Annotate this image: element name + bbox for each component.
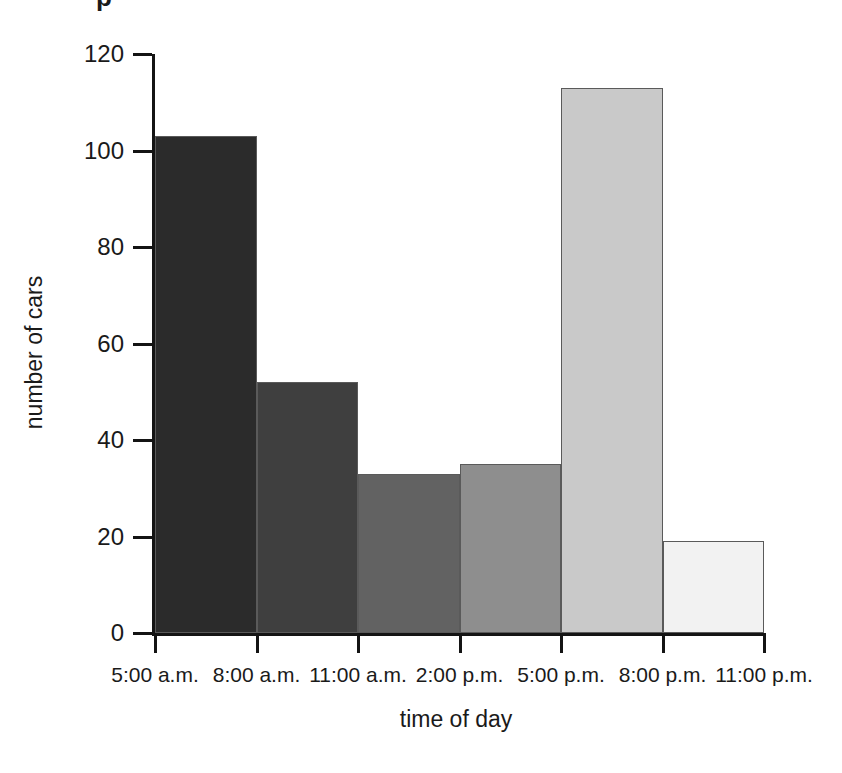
bar: [358, 474, 460, 633]
x-axis-tick: [662, 636, 665, 653]
x-axis-tick-label: 5:00 a.m.: [111, 664, 199, 685]
x-axis-title: time of day: [0, 706, 842, 733]
y-axis-tick: [133, 53, 152, 56]
bar: [663, 541, 765, 633]
y-axis-tick-label: 20: [4, 525, 124, 549]
bar: [460, 464, 562, 633]
x-axis-tick-label: 11:00 a.m.: [309, 664, 407, 685]
x-axis-tick: [459, 636, 462, 653]
bar: [155, 136, 257, 633]
y-axis-tick: [133, 150, 152, 153]
x-axis-tick: [256, 636, 259, 653]
x-axis-tick-label: 5:00 p.m.: [517, 664, 605, 685]
y-axis-tick-label: 100: [4, 139, 124, 163]
y-axis-tick-label: 120: [4, 42, 124, 66]
x-axis-title-text: time of day: [400, 706, 513, 732]
y-axis-tick: [133, 632, 152, 635]
y-axis-title: number of cars: [21, 233, 48, 473]
x-axis-tick: [763, 636, 766, 653]
y-axis-tick: [133, 343, 152, 346]
x-axis-tick: [357, 636, 360, 653]
x-axis-tick-label: 8:00 p.m.: [619, 664, 707, 685]
bar: [257, 382, 359, 633]
y-axis-tick: [133, 439, 152, 442]
plot-area: 020406080100120 5:00 a.m.8:00 a.m.11:00 …: [0, 0, 842, 773]
y-axis-tick-label: 0: [4, 621, 124, 645]
x-axis-tick-label: 8:00 a.m.: [213, 664, 301, 685]
y-axis-tick: [133, 536, 152, 539]
bar-chart-figure: p 020406080100120 5:00 a.m.8:00 a.m.11:0…: [0, 0, 842, 773]
x-axis-tick-label: 11:00 p.m.: [715, 664, 813, 685]
bar: [561, 88, 663, 633]
x-axis-tick: [154, 636, 157, 653]
x-axis-tick-label: 2:00 p.m.: [416, 664, 504, 685]
x-axis-tick: [560, 636, 563, 653]
y-axis-tick: [133, 246, 152, 249]
